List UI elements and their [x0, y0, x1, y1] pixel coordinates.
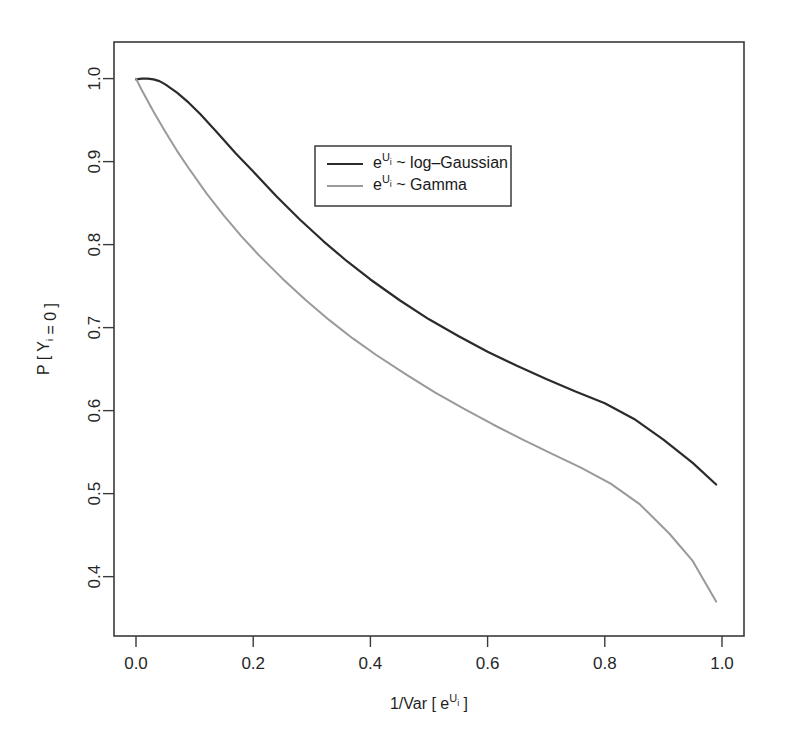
line-chart: 0.00.20.40.60.81.0 0.40.50.60.70.80.91.0… — [0, 0, 786, 743]
y-axis-title-rotated: P [ Yi = 0 ] — [35, 303, 59, 375]
legend-label-log-gaussian: eUi ~ log–Gaussian — [373, 151, 508, 171]
figure-container: 0.00.20.40.60.81.0 0.40.50.60.70.80.91.0… — [0, 0, 786, 743]
y-tick-label: 0.4 — [85, 565, 104, 589]
math-label: 1/Var [ eUi ] — [390, 692, 468, 712]
chart-legend: eUi ~ log–GaussianeUi ~ Gamma — [315, 146, 511, 206]
x-tick-label: 0.2 — [241, 654, 265, 673]
y-axis-title: P [ Yi = 0 ] — [35, 303, 59, 375]
x-tick-label: 0.8 — [593, 654, 617, 673]
plot-frame — [114, 42, 744, 636]
y-tick-label: 0.6 — [85, 399, 104, 423]
x-tick-label: 0.6 — [476, 654, 500, 673]
y-tick-label: 0.9 — [85, 150, 104, 174]
series-line-log-gaussian — [136, 79, 716, 485]
math-label: P [ Yi = 0 ] — [35, 303, 59, 375]
x-axis-title: 1/Var [ eUi ] — [390, 692, 468, 712]
y-tick-label: 1.0 — [85, 67, 104, 91]
y-tick-label: 0.8 — [85, 233, 104, 257]
y-tick-label: 0.7 — [85, 316, 104, 340]
x-axis: 0.00.20.40.60.81.0 — [124, 636, 734, 673]
x-tick-label: 0.0 — [124, 654, 148, 673]
y-tick-label: 0.5 — [85, 482, 104, 506]
y-axis: 0.40.50.60.70.80.91.0 — [85, 67, 114, 589]
x-tick-label: 0.4 — [359, 654, 383, 673]
x-tick-label: 1.0 — [710, 654, 734, 673]
